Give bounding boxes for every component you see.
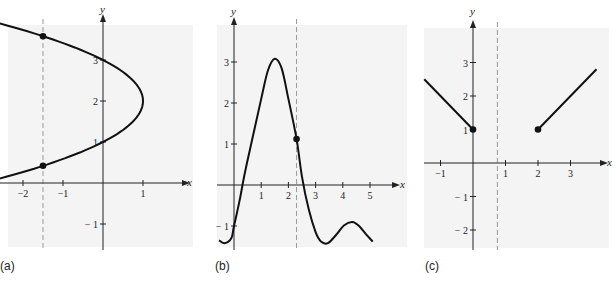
caption-c: (c): [425, 259, 439, 273]
intersection-point: [293, 136, 300, 143]
x-tick-label: 2: [286, 190, 291, 201]
y-tick-label: 2: [93, 96, 98, 107]
x-tick-label: 1: [141, 188, 146, 199]
y-axis-arrow-icon: [100, 14, 106, 22]
caption-a: (a): [0, 259, 15, 273]
y-tick-label: − 1: [85, 219, 98, 230]
graph-c-plot: xy−1123321− 1− 2: [410, 0, 616, 255]
graph-c: xy−1123321− 1− 2 (c): [410, 0, 616, 285]
y-tick-label: 2: [463, 91, 468, 102]
plot-background: [217, 25, 407, 247]
y-tick-label: 3: [224, 57, 229, 68]
x-axis-label: x: [399, 178, 405, 190]
y-tick-label: 1: [224, 139, 229, 150]
graph-b: xy12345321− 1 (b): [200, 0, 410, 285]
x-tick-label: 3: [568, 168, 573, 179]
x-tick-label: −1: [435, 168, 446, 179]
x-tick-label: 5: [368, 190, 373, 201]
y-tick-label: 1: [463, 125, 468, 136]
x-tick-label: 1: [503, 168, 508, 179]
graph-b-plot: xy12345321− 1: [200, 0, 410, 255]
y-axis-arrow-icon: [470, 20, 476, 28]
x-tick-label: 2: [536, 168, 541, 179]
x-tick-label: 3: [313, 190, 318, 201]
y-axis-label: y: [469, 5, 475, 17]
intersection-point: [535, 126, 542, 133]
intersection-point: [40, 162, 47, 169]
x-axis-label: x: [186, 176, 192, 188]
y-tick-label: 3: [463, 58, 468, 69]
y-axis-label: y: [99, 3, 105, 15]
x-tick-label: −1: [58, 188, 69, 199]
x-tick-label: 4: [340, 190, 345, 201]
y-axis-label: y: [230, 5, 236, 17]
x-tick-label: 1: [259, 190, 264, 201]
y-tick-label: − 1: [216, 221, 229, 232]
intersection-point: [470, 126, 477, 133]
plot-background: [424, 28, 609, 248]
graph-a-plot: xy−2−11123− 1: [0, 0, 200, 255]
y-tick-label: − 1: [455, 192, 468, 203]
caption-b: (b): [215, 259, 230, 273]
y-tick-label: 2: [224, 98, 229, 109]
intersection-point: [40, 33, 47, 40]
y-axis-arrow-icon: [231, 17, 237, 25]
y-tick-label: − 2: [455, 225, 468, 236]
graph-a: xy−2−11123− 1 (a): [0, 0, 200, 285]
x-axis-label: x: [606, 156, 612, 168]
x-tick-label: −2: [18, 188, 29, 199]
